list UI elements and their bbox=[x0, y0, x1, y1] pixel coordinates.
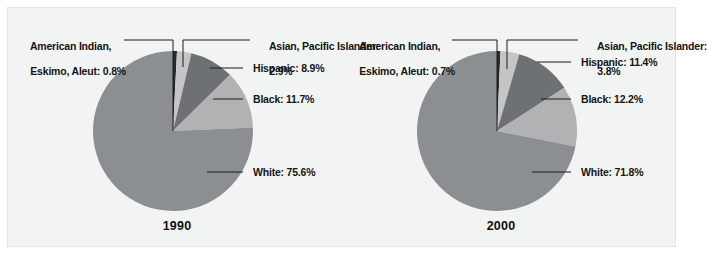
label-american-indian-line2-2000: Eskimo, Aleut: 0.7% bbox=[359, 65, 455, 77]
year-label-1990: 1990 bbox=[153, 219, 201, 233]
label-asian-1990: Asian, Pacific Islander: 2.9% bbox=[253, 27, 349, 90]
label-american-indian-2000: American Indian, Eskimo, Aleut: 0.7% bbox=[343, 27, 451, 90]
label-hispanic-1990: Hispanic: 8.9% bbox=[253, 62, 324, 75]
label-white-2000: White: 71.8% bbox=[581, 166, 643, 179]
label-white-1990: White: 75.6% bbox=[253, 166, 315, 179]
pie-panel-1990: American Indian, Eskimo, Aleut: 0.8% Asi… bbox=[7, 7, 348, 247]
pie-panel-2000: American Indian, Eskimo, Aleut: 0.7% Asi… bbox=[341, 7, 682, 247]
label-black-1990: Black: 11.7% bbox=[253, 93, 314, 106]
label-hispanic-2000: Hispanic: 11.4% bbox=[581, 56, 657, 69]
label-american-indian-1990: American Indian, Eskimo, Aleut: 0.8% bbox=[14, 27, 122, 90]
label-american-indian-line1-1990: American Indian, bbox=[30, 40, 111, 52]
year-label-2000: 2000 bbox=[477, 219, 525, 233]
label-american-indian-line2-1990: Eskimo, Aleut: 0.8% bbox=[30, 65, 126, 77]
label-black-2000: Black: 12.2% bbox=[581, 93, 643, 106]
label-american-indian-line1-2000: American Indian, bbox=[359, 40, 440, 52]
label-asian-line1-2000: Asian, Pacific Islander: bbox=[597, 40, 707, 52]
